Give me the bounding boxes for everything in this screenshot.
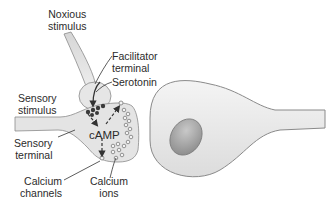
label-line: Calcium bbox=[90, 175, 128, 187]
label-line: terminal bbox=[14, 149, 53, 161]
label-serotonin: Serotonin bbox=[112, 76, 157, 88]
label-calcium-ions: Calcium ions bbox=[90, 175, 128, 199]
label-line: Sensory bbox=[18, 92, 57, 104]
label-line: Facilitator bbox=[112, 50, 158, 62]
label-line: terminal bbox=[112, 62, 158, 74]
label-line: cAMP bbox=[89, 129, 120, 141]
label-line: Sensory bbox=[14, 137, 53, 149]
label-facilitator-terminal: Facilitator terminal bbox=[112, 50, 158, 74]
postsynaptic-neuron bbox=[150, 81, 325, 177]
label-line: stimulus bbox=[18, 104, 57, 116]
label-calcium-channels: Calcium channels bbox=[20, 175, 62, 199]
label-line: channels bbox=[20, 187, 62, 199]
label-noxious-stimulus: Noxious stimulus bbox=[48, 8, 87, 32]
label-line: Calcium bbox=[20, 175, 62, 187]
label-sensory-terminal: Sensory terminal bbox=[14, 137, 53, 161]
label-camp: cAMP bbox=[89, 129, 120, 141]
facilitator-neuron bbox=[64, 32, 111, 110]
label-sensory-stimulus: Sensory stimulus bbox=[18, 92, 57, 116]
label-line: Serotonin bbox=[112, 76, 157, 88]
label-line: Noxious bbox=[48, 8, 87, 20]
diagram-canvas: Noxious stimulus Facilitator terminal Se… bbox=[0, 0, 335, 209]
label-line: stimulus bbox=[48, 20, 87, 32]
label-line: ions bbox=[90, 187, 128, 199]
